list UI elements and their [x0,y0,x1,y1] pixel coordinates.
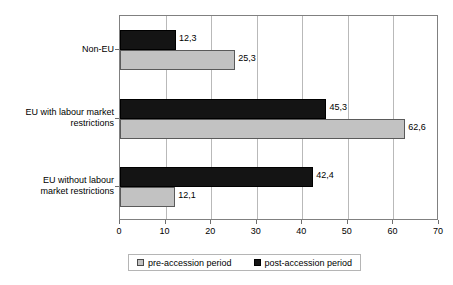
category-label-line: EU without labour [0,175,114,186]
bar-post-accession [120,99,326,119]
value-axis-tick [301,220,302,224]
gridline [348,16,349,219]
plot-area [119,15,438,220]
bar-pre-accession [120,119,405,139]
chart-legend: pre-accession periodpost-accession perio… [128,254,361,271]
legend-swatch-icon [254,259,261,266]
bar-chart: Non-EUEU with labour marketrestrictionsE… [0,0,453,285]
legend-swatch-icon [137,259,144,266]
value-axis-tick [392,220,393,224]
legend-item-label: pre-accession period [148,258,232,268]
value-axis-tick-label: 50 [332,226,362,236]
bar-value-label: 12,3 [179,34,197,43]
category-label-line: restrictions [0,118,114,129]
category-axis-tick [115,118,119,119]
value-axis-tick-label: 60 [377,226,407,236]
category-label: EU without labourmarket restrictions [0,175,114,197]
bar-pre-accession [120,50,235,70]
category-label: Non-EU [0,44,114,55]
value-axis-tick [165,220,166,224]
category-axis-tick [115,186,119,187]
bar-pre-accession [120,187,175,207]
value-axis-tick-label: 70 [423,226,453,236]
value-axis-tick [210,220,211,224]
bar-post-accession [120,167,313,187]
value-axis-tick [256,220,257,224]
value-axis-tick-label: 0 [104,226,134,236]
category-label-line: Non-EU [0,44,114,55]
bar-value-label: 45,3 [329,103,347,112]
legend-item: post-accession period [254,258,353,268]
category-label-line: EU with labour market [0,107,114,118]
bar-value-label: 62,6 [408,123,426,132]
category-label: EU with labour marketrestrictions [0,107,114,129]
legend-item: pre-accession period [137,258,232,268]
value-axis-tick-label: 30 [241,226,271,236]
value-axis-tick [438,220,439,224]
value-axis-tick-label: 20 [195,226,225,236]
bar-post-accession [120,30,176,50]
value-axis-tick-label: 40 [286,226,316,236]
gridline [393,16,394,219]
value-axis-tick-label: 10 [150,226,180,236]
category-axis-tick [115,49,119,50]
value-axis-tick [347,220,348,224]
legend-item-label: post-accession period [265,258,353,268]
value-axis-tick [119,220,120,224]
bar-value-label: 42,4 [316,171,334,180]
bar-value-label: 12,1 [178,191,196,200]
bar-value-label: 25,3 [238,54,256,63]
category-label-line: market restrictions [0,186,114,197]
